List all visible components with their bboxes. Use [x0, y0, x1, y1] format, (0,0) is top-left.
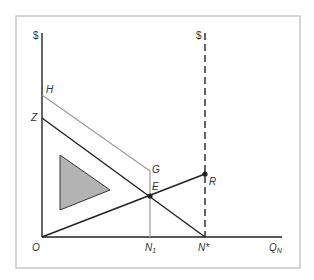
label-r: R	[209, 176, 216, 187]
right-y-axis-label: $	[196, 30, 202, 41]
label-nstar: N*	[198, 242, 210, 253]
label-origin: O	[32, 242, 40, 253]
label-h: H	[46, 84, 54, 95]
label-g: G	[152, 164, 160, 175]
point-r	[202, 171, 207, 176]
label-z: Z	[30, 112, 38, 123]
diagram-canvas: $ $ H Z G E R O N1 N* QN	[0, 0, 314, 280]
left-y-axis-label: $	[33, 30, 39, 41]
point-e	[147, 193, 152, 198]
label-e: E	[152, 181, 159, 192]
